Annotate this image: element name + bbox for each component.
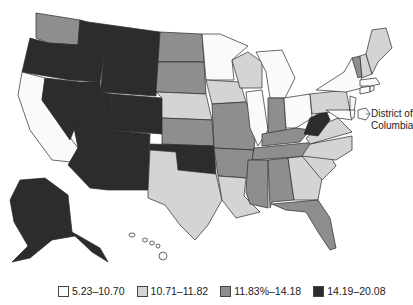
legend-item: 14.19–20.08	[313, 285, 385, 297]
state-nebraska	[156, 92, 212, 120]
legend-label: 5.23–10.70	[72, 285, 125, 297]
legend-label: 10.71–11.82	[151, 285, 209, 297]
state-massachusetts	[360, 78, 380, 86]
us-choropleth-map	[0, 0, 410, 270]
legend-item: 11.83%–14.18	[220, 285, 301, 297]
state-hawaii	[129, 233, 167, 260]
state-rhode-island	[370, 86, 374, 92]
state-new-mexico	[108, 130, 150, 190]
state-indiana	[268, 98, 286, 134]
state-maine	[366, 28, 392, 74]
legend-label: 14.19–20.08	[327, 285, 385, 297]
legend-swatch-icon	[58, 286, 69, 297]
legend-swatch-icon	[220, 286, 231, 297]
legend: 5.23–10.70 10.71–11.82 11.83%–14.18 14.1…	[58, 285, 386, 297]
state-kansas	[162, 118, 214, 146]
legend-item: 10.71–11.82	[137, 285, 209, 297]
state-maryland	[326, 110, 352, 120]
state-north-dakota	[158, 32, 204, 62]
dc-annotation: District of Columbia	[371, 108, 413, 132]
state-oregon	[22, 38, 78, 80]
state-mississippi	[246, 160, 268, 208]
state-washington	[36, 13, 80, 45]
state-delaware	[350, 110, 355, 118]
state-arizona	[68, 128, 110, 190]
legend-swatch-icon	[137, 286, 148, 297]
state-new-jersey	[350, 96, 356, 112]
state-colorado	[110, 94, 162, 134]
state-florida	[272, 200, 336, 250]
legend-label: 11.83%–14.18	[234, 285, 301, 297]
state-alaska	[10, 178, 108, 262]
legend-swatch-icon	[313, 286, 324, 297]
state-south-dakota	[156, 62, 206, 94]
state-wyoming	[100, 58, 158, 96]
legend-item: 5.23–10.70	[58, 285, 125, 297]
